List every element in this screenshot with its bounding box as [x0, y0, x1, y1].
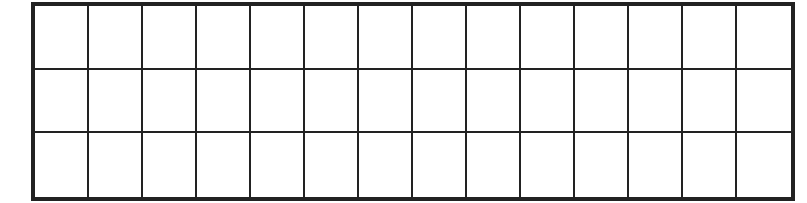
grid-cell [521, 133, 575, 197]
grid-cell [575, 70, 629, 134]
grid-cell [467, 70, 521, 134]
grid-cell [629, 70, 683, 134]
grid-cell [251, 133, 305, 197]
grid-cell [737, 70, 791, 134]
grid-cell [251, 6, 305, 70]
grid-cell [575, 6, 629, 70]
grid-cell [89, 133, 143, 197]
grid-cell [35, 133, 89, 197]
grid-cell [359, 70, 413, 134]
grid-cell [89, 70, 143, 134]
grid-cell [413, 70, 467, 134]
grid-cell [305, 70, 359, 134]
grid-cell [305, 133, 359, 197]
grid-cell [413, 133, 467, 197]
grid-cell [629, 133, 683, 197]
grid-cell [89, 6, 143, 70]
grid-cell [683, 133, 737, 197]
grid-cell [143, 70, 197, 134]
grid-cell [359, 6, 413, 70]
grid-cell [359, 133, 413, 197]
grid-cell [683, 70, 737, 134]
grid-cell [35, 6, 89, 70]
grid-cell [197, 70, 251, 134]
grid-cell [143, 133, 197, 197]
grid-cell [467, 6, 521, 70]
grid-cell [629, 6, 683, 70]
grid-cell [683, 6, 737, 70]
grid-cell [413, 6, 467, 70]
empty-grid-table [31, 2, 795, 201]
grid-cell [467, 133, 521, 197]
grid-cell [521, 6, 575, 70]
grid-cell [521, 70, 575, 134]
grid-cell [251, 70, 305, 134]
grid-cell [305, 6, 359, 70]
grid-cell [197, 133, 251, 197]
grid-cell [575, 133, 629, 197]
grid-cell [197, 6, 251, 70]
grid-cell [35, 70, 89, 134]
grid-cell [143, 6, 197, 70]
grid-cell [737, 133, 791, 197]
grid-cell [737, 6, 791, 70]
